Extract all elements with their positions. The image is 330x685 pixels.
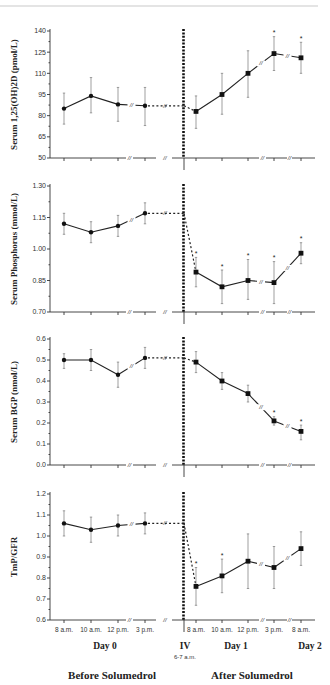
after-data-point — [246, 71, 251, 76]
y-tick-label: 0.8 — [36, 574, 46, 581]
after-data-point — [272, 419, 277, 424]
after-data-point — [220, 92, 225, 97]
after-data-point — [272, 280, 277, 285]
day1-label: Day 1 — [224, 641, 248, 651]
significance-mark: * — [247, 252, 250, 259]
connector-break-mark: // — [162, 520, 168, 526]
y-axis-label: TmP/GFR — [9, 536, 19, 577]
panel-1: 50658095110125140Serum 1,25(OH)2D (pmol/… — [9, 27, 315, 170]
significance-mark: * — [300, 235, 303, 242]
y-tick-label: 1.1 — [36, 511, 46, 518]
y-axis-label: Serum BGP (nmol/L) — [9, 361, 19, 443]
significance-mark: * — [221, 552, 224, 559]
panel-4: 0.60.70.80.91.01.11.2TmP/GFR////////////… — [9, 490, 315, 632]
y-tick-label: 1.00 — [32, 245, 46, 252]
after-data-point — [299, 55, 304, 60]
y-tick-label: 1.0 — [36, 532, 46, 539]
after-data-point — [246, 391, 251, 396]
axis-break-mark: // — [162, 309, 168, 315]
significance-mark: * — [221, 263, 224, 270]
x-tick-label-after-2: 12 p.m. — [237, 626, 259, 634]
y-tick-label: 95 — [38, 91, 46, 98]
before-data-point — [116, 373, 120, 377]
x-axis-labels: 8 a.m. 10 a.m. 12 p.m. 3 p.m. 8 a.m. 10 … — [55, 626, 322, 681]
after-data-point — [220, 379, 225, 384]
after-solumedrol-label: After Solumedrol — [211, 669, 293, 681]
axis-break-mark: // — [127, 155, 133, 161]
before-data-point — [62, 222, 66, 226]
significance-mark: * — [300, 418, 303, 425]
y-axis-label: Serum 1,25(OH)2D (pmol/L) — [9, 39, 19, 150]
significance-mark: * — [195, 250, 198, 257]
y-tick-label: 140 — [34, 27, 46, 34]
significance-mark: * — [273, 409, 276, 416]
y-axis-label: Serum Phosphorus (mmol/L) — [9, 193, 19, 305]
significance-mark: * — [300, 35, 303, 42]
connector-break-mark: // — [162, 210, 168, 216]
before-data-point — [143, 521, 147, 525]
x-tick-label-before-0: 8 a.m. — [55, 626, 73, 633]
before-data-point — [62, 521, 66, 525]
x-tick-label-after-4: 8 a.m. — [292, 626, 310, 633]
significance-mark: * — [273, 29, 276, 36]
after-data-point — [246, 559, 251, 564]
y-tick-label: 0.5 — [36, 356, 46, 363]
iv-label: IV — [180, 641, 191, 651]
axis-break-mark: // — [127, 309, 133, 315]
before-solumedrol-label: Before Solumedrol — [68, 669, 156, 681]
connector-dotted-after — [184, 213, 196, 272]
axis-break-mark: // — [260, 155, 266, 161]
axis-break-mark: // — [162, 617, 168, 623]
axis-break-mark: // — [287, 617, 293, 623]
y-tick-label: 80 — [38, 112, 46, 119]
after-data-point — [220, 574, 225, 579]
panel-2: 0.700.851.001.151.30Serum Phosphorus (mm… — [9, 182, 315, 324]
y-tick-label: 0.2 — [36, 419, 46, 426]
x-tick-label-before-3: 3 p.m. — [136, 626, 154, 634]
y-tick-label: 0.9 — [36, 553, 46, 560]
axis-break-mark: // — [162, 155, 168, 161]
before-data-point — [116, 102, 120, 106]
after-data-point — [299, 251, 304, 256]
significance-mark: * — [195, 560, 198, 567]
axis-break-mark: // — [260, 617, 266, 623]
y-tick-label: 0.1 — [36, 440, 46, 447]
day2-label: Day 2 — [298, 641, 322, 651]
after-data-point — [246, 278, 251, 283]
day0-label: Day 0 — [93, 641, 117, 651]
iv-time-label: 6-7 a.m. — [174, 654, 196, 660]
connector-break-mark: // — [162, 355, 168, 361]
before-data-point — [143, 356, 147, 360]
before-data-point — [62, 358, 66, 362]
y-tick-label: 0.7 — [36, 595, 46, 602]
after-data-point — [299, 429, 304, 434]
after-data-point — [194, 109, 199, 114]
figure: 50658095110125140Serum 1,25(OH)2D (pmol/… — [0, 0, 330, 685]
y-tick-label: 0.6 — [36, 335, 46, 342]
panel-3: 0.00.10.20.30.40.50.6Serum BGP (nmol/L)/… — [9, 335, 315, 477]
y-tick-label: 50 — [38, 154, 46, 161]
y-tick-label: 0.3 — [36, 398, 46, 405]
y-tick-label: 1.15 — [32, 214, 46, 221]
after-data-point — [194, 360, 199, 365]
before-data-point — [116, 224, 120, 228]
before-data-point — [62, 106, 66, 110]
axis-break-mark: // — [260, 462, 266, 468]
axis-break-mark: // — [287, 462, 293, 468]
panels: 50658095110125140Serum 1,25(OH)2D (pmol/… — [9, 27, 315, 632]
before-data-point — [143, 211, 147, 215]
before-data-point — [89, 528, 93, 532]
after-data-point — [299, 546, 304, 551]
before-data-point — [89, 230, 93, 234]
axis-break-mark: // — [260, 309, 266, 315]
y-tick-label: 1.30 — [32, 182, 46, 189]
y-tick-label: 0.0 — [36, 461, 46, 468]
connector-break-mark: // — [162, 103, 168, 109]
after-data-point — [272, 51, 277, 56]
y-tick-label: 1.2 — [36, 490, 46, 497]
after-data-point — [220, 284, 225, 289]
y-tick-label: 0.70 — [32, 308, 46, 315]
before-data-point — [116, 523, 120, 527]
after-data-point — [272, 565, 277, 570]
x-tick-label-after-0: 8 a.m. — [187, 626, 205, 633]
